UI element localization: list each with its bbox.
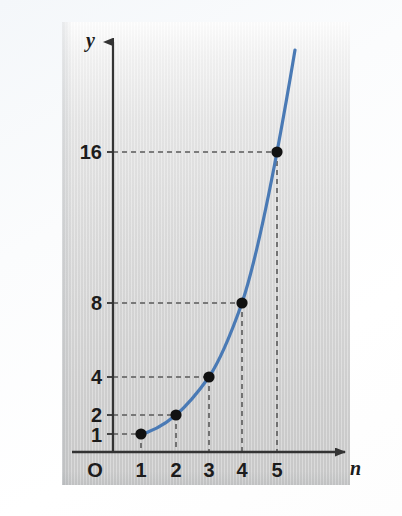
- origin-label: O: [87, 460, 103, 480]
- y-tick-label-2: 2: [58, 405, 102, 425]
- y-axis-label: y: [86, 30, 95, 50]
- y-tick-label-8: 8: [58, 293, 102, 313]
- x-tick-label-3: 3: [203, 460, 214, 480]
- x-axis-label: n: [350, 458, 361, 478]
- y-tick-label-16: 16: [58, 142, 102, 162]
- y-tick-label-4: 4: [58, 367, 102, 387]
- data-point-1: [135, 428, 146, 439]
- data-point-3: [203, 371, 214, 382]
- x-tick-label-5: 5: [271, 460, 282, 480]
- data-point-4: [236, 297, 247, 308]
- x-tick-label-4: 4: [236, 460, 247, 480]
- data-point-5: [271, 146, 282, 157]
- y-tick-label-1: 1: [58, 425, 102, 445]
- figure-container: 16 8 4 2 1 O 1 2 3 4 5 y n: [0, 0, 402, 516]
- x-tick-label-2: 2: [170, 460, 181, 480]
- data-point-2: [170, 409, 181, 420]
- vertical-guide-lines: [141, 152, 277, 452]
- horizontal-guide-lines: [113, 152, 277, 434]
- x-tick-label-1: 1: [135, 460, 146, 480]
